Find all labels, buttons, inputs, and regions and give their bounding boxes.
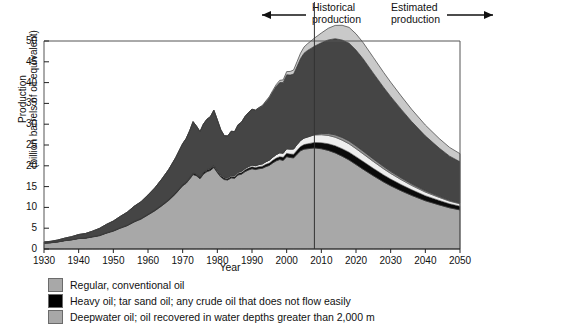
oil-production-figure: Historical production Estimated producti… — [0, 0, 580, 329]
legend-swatch-icon — [48, 294, 63, 308]
legend-item-1: Heavy oil; tar sand oil; any crude oil t… — [48, 293, 568, 309]
estimated-arrow-right — [447, 11, 493, 19]
legend-swatch-icon — [48, 278, 63, 292]
legend-swatch-icon — [48, 310, 63, 324]
legend-item-label: Deepwater oil; oil recovered in water de… — [70, 311, 375, 323]
legend-item-2: Deepwater oil; oil recovered in water de… — [48, 309, 568, 325]
legend-item-0: Regular, conventional oil — [48, 277, 568, 293]
legend-item-label: Regular, conventional oil — [70, 279, 184, 291]
chart-legend: Regular, conventional oilHeavy oil; tar … — [48, 277, 568, 325]
historical-arrow-left — [262, 11, 306, 19]
legend-item-label: Heavy oil; tar sand oil; any crude oil t… — [70, 295, 351, 307]
